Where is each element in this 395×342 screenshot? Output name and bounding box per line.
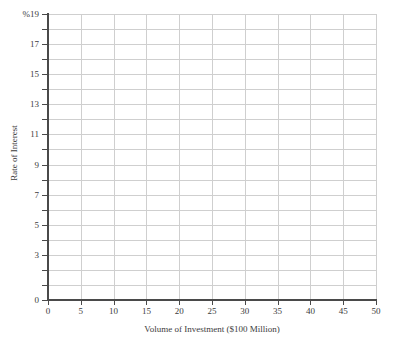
y-axis-tick bbox=[42, 195, 48, 196]
gridline-vertical bbox=[245, 14, 246, 300]
gridline-vertical bbox=[376, 14, 377, 300]
x-axis-tick-label: 50 bbox=[361, 307, 391, 316]
y-axis-tick bbox=[42, 255, 48, 256]
y-axis-tick bbox=[42, 44, 48, 45]
y-axis-tick bbox=[42, 165, 48, 166]
y-axis-tick bbox=[42, 89, 48, 90]
x-axis-tick bbox=[376, 300, 377, 305]
y-axis-tick-label: 11 bbox=[0, 130, 39, 139]
y-axis-tick bbox=[42, 119, 48, 120]
x-axis-tick bbox=[278, 300, 279, 305]
x-axis-tick bbox=[114, 300, 115, 305]
x-axis-tick-label: 5 bbox=[66, 307, 96, 316]
y-axis-tick bbox=[42, 14, 48, 15]
y-axis-tick-label: %19 bbox=[0, 10, 39, 19]
gridline-vertical bbox=[114, 14, 115, 300]
x-axis-tick bbox=[245, 300, 246, 305]
y-axis-tick bbox=[42, 59, 48, 60]
y-axis-tick bbox=[42, 285, 48, 286]
x-axis-tick bbox=[343, 300, 344, 305]
chart-figure: 0357911131517%19 05101520253035404550 Vo… bbox=[0, 0, 395, 342]
x-axis-tick-label: 40 bbox=[295, 307, 325, 316]
gridline-vertical bbox=[81, 14, 82, 300]
y-axis-tick-label: 7 bbox=[0, 191, 39, 200]
y-axis-tick bbox=[42, 104, 48, 105]
y-axis-tick bbox=[42, 240, 48, 241]
x-axis-tick bbox=[48, 300, 49, 305]
y-axis-tick-label: 13 bbox=[0, 100, 39, 109]
y-axis-tick bbox=[42, 225, 48, 226]
gridline-vertical bbox=[343, 14, 344, 300]
y-axis-tick bbox=[42, 74, 48, 75]
x-axis-tick bbox=[310, 300, 311, 305]
x-axis-tick-label: 30 bbox=[230, 307, 260, 316]
y-axis-tick-label: 17 bbox=[0, 40, 39, 49]
y-axis-tick-label: 5 bbox=[0, 221, 39, 230]
x-axis-tick bbox=[81, 300, 82, 305]
x-axis-tick bbox=[179, 300, 180, 305]
gridline-vertical bbox=[278, 14, 279, 300]
y-axis-tick-label: 3 bbox=[0, 251, 39, 260]
x-axis-tick-label: 35 bbox=[263, 307, 293, 316]
x-axis-title: Volume of Investment ($100 Million) bbox=[48, 324, 376, 334]
x-axis-tick-label: 0 bbox=[33, 307, 63, 316]
x-axis-tick bbox=[212, 300, 213, 305]
y-axis-tick bbox=[42, 134, 48, 135]
gridline-vertical bbox=[212, 14, 213, 300]
y-axis-tick bbox=[42, 29, 48, 30]
x-axis-tick-label: 10 bbox=[99, 307, 129, 316]
x-axis-tick bbox=[146, 300, 147, 305]
x-axis-tick-label: 45 bbox=[328, 307, 358, 316]
y-axis-tick-label: 15 bbox=[0, 70, 39, 79]
x-axis-tick-label: 25 bbox=[197, 307, 227, 316]
y-axis-tick bbox=[42, 149, 48, 150]
y-axis-tick-label: 9 bbox=[0, 161, 39, 170]
y-axis-tick-label: 0 bbox=[0, 296, 39, 305]
y-axis-line bbox=[47, 13, 49, 301]
x-axis-tick-label: 20 bbox=[164, 307, 194, 316]
y-axis-tick bbox=[42, 180, 48, 181]
gridline-vertical bbox=[179, 14, 180, 300]
gridline-vertical bbox=[146, 14, 147, 300]
plot-area bbox=[48, 14, 376, 300]
x-axis-tick-label: 15 bbox=[131, 307, 161, 316]
gridline-vertical bbox=[310, 14, 311, 300]
y-axis-tick bbox=[42, 210, 48, 211]
y-axis-title: Rate of Interest bbox=[9, 93, 19, 213]
y-axis-tick bbox=[42, 270, 48, 271]
